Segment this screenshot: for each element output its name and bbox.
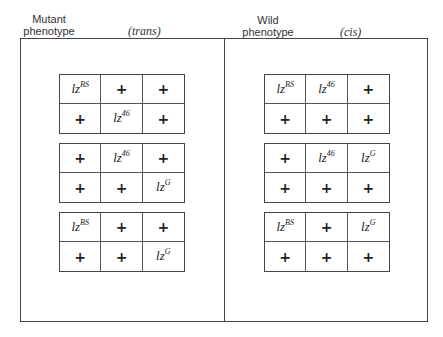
wild-type-allele: + — [157, 81, 169, 97]
allele-superscript: 46 — [327, 80, 335, 89]
wild-type-allele: + — [157, 150, 169, 166]
wild-type-allele: + — [362, 81, 374, 97]
genotype-cell: + — [101, 213, 142, 242]
mutant-allele: lzBS — [276, 219, 294, 235]
genotype-cell: + — [306, 213, 347, 242]
allele-superscript: 46 — [327, 149, 335, 158]
allele-superscript: BS — [285, 218, 294, 227]
mutant-allele: lz46 — [318, 81, 335, 97]
wild-type-allele: + — [321, 111, 333, 127]
genotype-cell: + — [60, 144, 101, 173]
allele-superscript: 46 — [122, 149, 130, 158]
genotype-cell: + — [60, 173, 101, 202]
genotype-cell: + — [265, 173, 306, 202]
wild-type-allele: + — [116, 180, 128, 196]
mutant-allele: lzBS — [71, 219, 89, 235]
genotype-cell: + — [60, 242, 101, 271]
wild-type-allele: + — [74, 111, 86, 127]
wild-type-allele: + — [279, 180, 291, 196]
genotype-cell: lzBS — [60, 75, 101, 104]
genotype-cell: lz46 — [306, 75, 347, 104]
allele-superscript: G — [370, 149, 376, 158]
mutant-genotype-grid: +lz46+++lzG — [59, 143, 185, 203]
genotype-cell: + — [306, 173, 347, 202]
genotype-cell: lzBS — [265, 75, 306, 104]
allele-superscript: BS — [80, 80, 89, 89]
wild-type-allele: + — [279, 150, 291, 166]
genotype-cell: lzG — [348, 144, 389, 173]
genotype-cell: + — [348, 242, 389, 271]
genotype-cell: lzG — [348, 213, 389, 242]
wild-genotype-grid: lzBSlz46++++ — [264, 74, 390, 134]
genotype-cell: + — [348, 75, 389, 104]
genotype-cell: + — [348, 173, 389, 202]
label-line1: Wild — [238, 14, 298, 26]
mutant-phenotype-label: Mutant phenotype — [14, 13, 84, 37]
label-line2: phenotype — [14, 25, 84, 37]
wild-type-allele: + — [362, 111, 374, 127]
wild-genotype-grid: lzBS+lzG+++ — [264, 212, 390, 272]
genotype-cell: + — [143, 75, 184, 104]
wild-type-allele: + — [321, 249, 333, 265]
mutant-allele: lzG — [156, 179, 170, 195]
wild-type-allele: + — [321, 180, 333, 196]
mutant-genotype-grid: lzBS+++lz46+ — [59, 74, 185, 134]
mutant-allele: lzG — [361, 219, 375, 235]
genotype-cell: lzG — [143, 242, 184, 271]
genotype-cell: lz46 — [306, 144, 347, 173]
genotype-cell: lzBS — [265, 213, 306, 242]
allele-superscript: G — [165, 247, 171, 256]
genotype-cell: + — [143, 213, 184, 242]
genotype-cell: + — [60, 104, 101, 133]
wild-type-allele: + — [116, 219, 128, 235]
label-line2: phenotype — [238, 26, 298, 38]
wild-type-allele: + — [321, 219, 333, 235]
wild-type-allele: + — [279, 111, 291, 127]
mutant-allele: lzBS — [276, 81, 294, 97]
allele-superscript: G — [370, 218, 376, 227]
trans-label: (trans) — [128, 24, 161, 39]
mutant-allele: lzG — [156, 248, 170, 264]
mutant-allele: lz46 — [113, 150, 130, 166]
mutant-allele: lzBS — [71, 81, 89, 97]
wild-type-allele: + — [157, 219, 169, 235]
mutant-allele: lzG — [361, 150, 375, 166]
wild-genotype-grid: +lz46lzG+++ — [264, 143, 390, 203]
genotype-cell: + — [265, 144, 306, 173]
wild-phenotype-label: Wild phenotype — [238, 14, 298, 38]
genotype-cell: + — [306, 242, 347, 271]
allele-superscript: 46 — [122, 109, 130, 118]
genotype-cell: lz46 — [101, 104, 142, 133]
mutant-allele: lz46 — [318, 150, 335, 166]
allele-superscript: BS — [80, 218, 89, 227]
genotype-cell: + — [101, 242, 142, 271]
genotype-cell: + — [265, 242, 306, 271]
wild-type-allele: + — [74, 249, 86, 265]
wild-type-allele: + — [116, 249, 128, 265]
mutant-genotype-grid: lzBS++++lzG — [59, 212, 185, 272]
wild-type-allele: + — [74, 150, 86, 166]
wild-type-allele: + — [362, 249, 374, 265]
label-line1: Mutant — [14, 13, 84, 25]
genotype-cell: lz46 — [101, 144, 142, 173]
wild-type-allele: + — [116, 81, 128, 97]
genotype-cell: + — [306, 104, 347, 133]
mutant-allele: lz46 — [113, 110, 130, 126]
genotype-cell: + — [265, 104, 306, 133]
genotype-cell: + — [143, 104, 184, 133]
allele-superscript: G — [165, 178, 171, 187]
genotype-cell: + — [101, 75, 142, 104]
genotype-cell: + — [348, 104, 389, 133]
genotype-cell: + — [143, 144, 184, 173]
wild-type-allele: + — [362, 180, 374, 196]
wild-type-allele: + — [279, 249, 291, 265]
genotype-cell: lzBS — [60, 213, 101, 242]
genotype-cell: + — [101, 173, 142, 202]
wild-type-allele: + — [157, 111, 169, 127]
allele-superscript: BS — [285, 80, 294, 89]
genotype-cell: lzG — [143, 173, 184, 202]
wild-type-allele: + — [74, 180, 86, 196]
